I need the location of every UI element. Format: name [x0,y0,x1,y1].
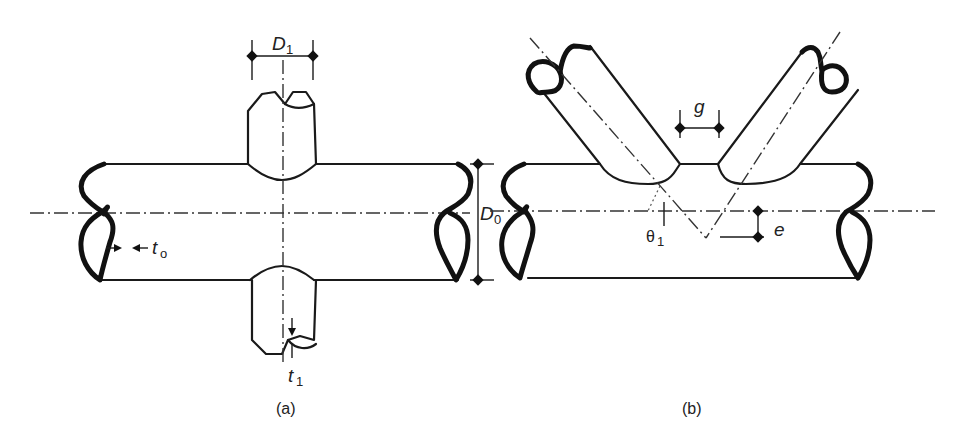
label-e: e [774,219,785,240]
label-D0: D [480,203,494,224]
caption-b: (b) [682,400,702,417]
label-theta1-sub: 1 [657,234,664,249]
tube-joint-diagram: D 1 D 0 t o t 1 (a) [0,0,970,441]
label-t0-sub: o [160,246,167,261]
label-D1: D [272,33,286,54]
label-t0: t [152,237,158,258]
caption-a: (a) [276,400,296,417]
label-g: g [694,96,705,117]
panel-b-k-gap-joint: g e θ 1 (b) [490,32,935,417]
label-t1-sub: 1 [296,374,303,389]
panel-a-cross-joint: D 1 D 0 t o t 1 (a) [30,33,501,417]
label-t1: t [288,365,294,386]
label-D0-sub: 0 [494,212,501,227]
label-theta1: θ [646,228,655,245]
label-D1-sub: 1 [286,42,293,57]
